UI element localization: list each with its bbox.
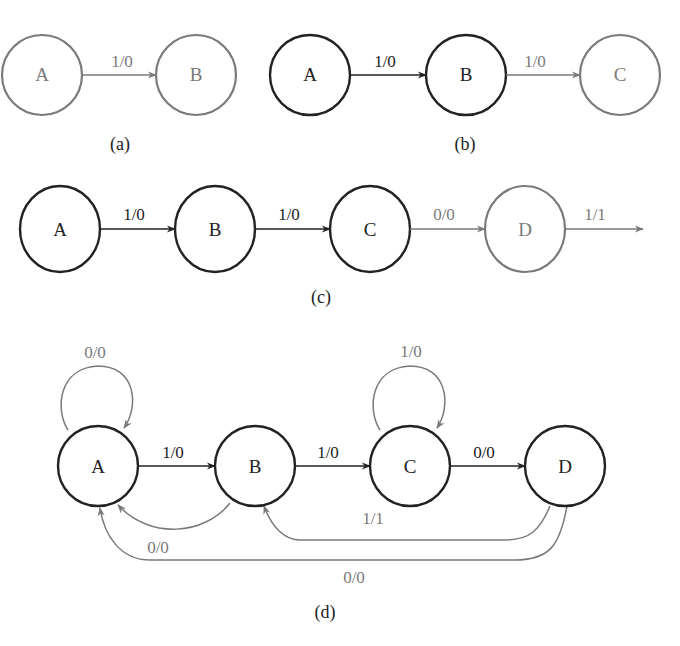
arrow-icon [100, 506, 567, 560]
node-label: B [209, 219, 222, 240]
transition-b-B-C: 1/0 [506, 52, 580, 75]
state-node-d-C: C [370, 426, 450, 506]
transition-label: 1/0 [111, 52, 133, 71]
node-label: B [460, 64, 473, 85]
state-node-b-A: A [270, 35, 350, 115]
transition-label: 0/0 [433, 205, 455, 224]
state-node-a-A: A [2, 35, 82, 115]
transition-d-C-C: 1/0 [373, 342, 445, 430]
transition-b-A-B: 1/0 [350, 52, 426, 75]
transition-label: 1/0 [278, 205, 300, 224]
state-node-c-A: A [20, 186, 100, 272]
transition-label: 1/0 [400, 342, 422, 361]
diagram-c: A B C D 1/0 1/0 0/0 1/1 (c) [20, 186, 643, 308]
node-label: C [614, 64, 627, 85]
transition-d-A-B: 1/0 [138, 443, 215, 466]
transition-label: 1/0 [317, 443, 339, 462]
state-diagram-canvas: A B 1/0 (a) A B C 1/0 1/0 [0, 0, 680, 646]
transition-c-A-B: 1/0 [100, 205, 175, 229]
state-node-b-C: C [580, 35, 660, 115]
state-node-d-B: B [215, 426, 295, 506]
transition-label: 1/1 [362, 509, 384, 528]
transition-label: 1/0 [524, 52, 546, 71]
node-label: B [249, 456, 262, 477]
transition-c-B-C: 1/0 [255, 205, 330, 229]
transition-label: 0/0 [473, 443, 495, 462]
transition-a-A-B: 1/0 [82, 52, 156, 75]
caption-a: (a) [110, 134, 130, 155]
transition-label: 0/0 [147, 538, 169, 557]
transition-label: 1/0 [123, 205, 145, 224]
state-node-c-D: D [485, 186, 565, 272]
node-label: D [518, 219, 532, 240]
transition-c-D-out: 1/1 [565, 205, 643, 229]
node-label: A [53, 219, 67, 240]
transition-label: 1/0 [162, 443, 184, 462]
transition-label: 1/1 [584, 205, 606, 224]
diagram-b: A B C 1/0 1/0 (b) [270, 35, 660, 155]
caption-c: (c) [311, 287, 331, 308]
transition-d-B-A: 0/0 [118, 503, 230, 557]
transition-label: 1/0 [374, 52, 396, 71]
transition-d-D-A: 0/0 [100, 506, 567, 587]
node-label: A [35, 64, 49, 85]
transition-label: 0/0 [84, 343, 106, 362]
transition-c-C-D: 0/0 [410, 205, 485, 229]
state-node-b-B: B [426, 35, 506, 115]
arrow-icon [264, 506, 550, 540]
transition-d-A-A: 0/0 [61, 343, 132, 430]
transition-d-C-D: 0/0 [450, 443, 525, 466]
node-label: C [404, 456, 417, 477]
state-node-a-B: B [156, 35, 236, 115]
transition-d-D-B: 1/1 [264, 506, 550, 540]
state-node-c-C: C [330, 186, 410, 272]
node-label: A [303, 64, 317, 85]
node-label: D [558, 456, 572, 477]
transition-label: 0/0 [343, 568, 365, 587]
node-label: B [190, 64, 203, 85]
transition-d-B-C: 1/0 [295, 443, 370, 466]
diagram-d: 0/0 1/1 0/0 0/0 1/0 1/0 1/0 [58, 342, 605, 623]
caption-d: (d) [315, 602, 336, 623]
arrow-icon [118, 503, 230, 529]
node-label: C [364, 219, 377, 240]
node-label: A [91, 456, 105, 477]
state-node-c-B: B [175, 186, 255, 272]
self-loop-arrow-icon [61, 366, 132, 430]
caption-b: (b) [455, 134, 476, 155]
state-node-d-D: D [525, 426, 605, 506]
self-loop-arrow-icon [373, 366, 445, 430]
state-node-d-A: A [58, 426, 138, 506]
diagram-a: A B 1/0 (a) [2, 35, 236, 155]
